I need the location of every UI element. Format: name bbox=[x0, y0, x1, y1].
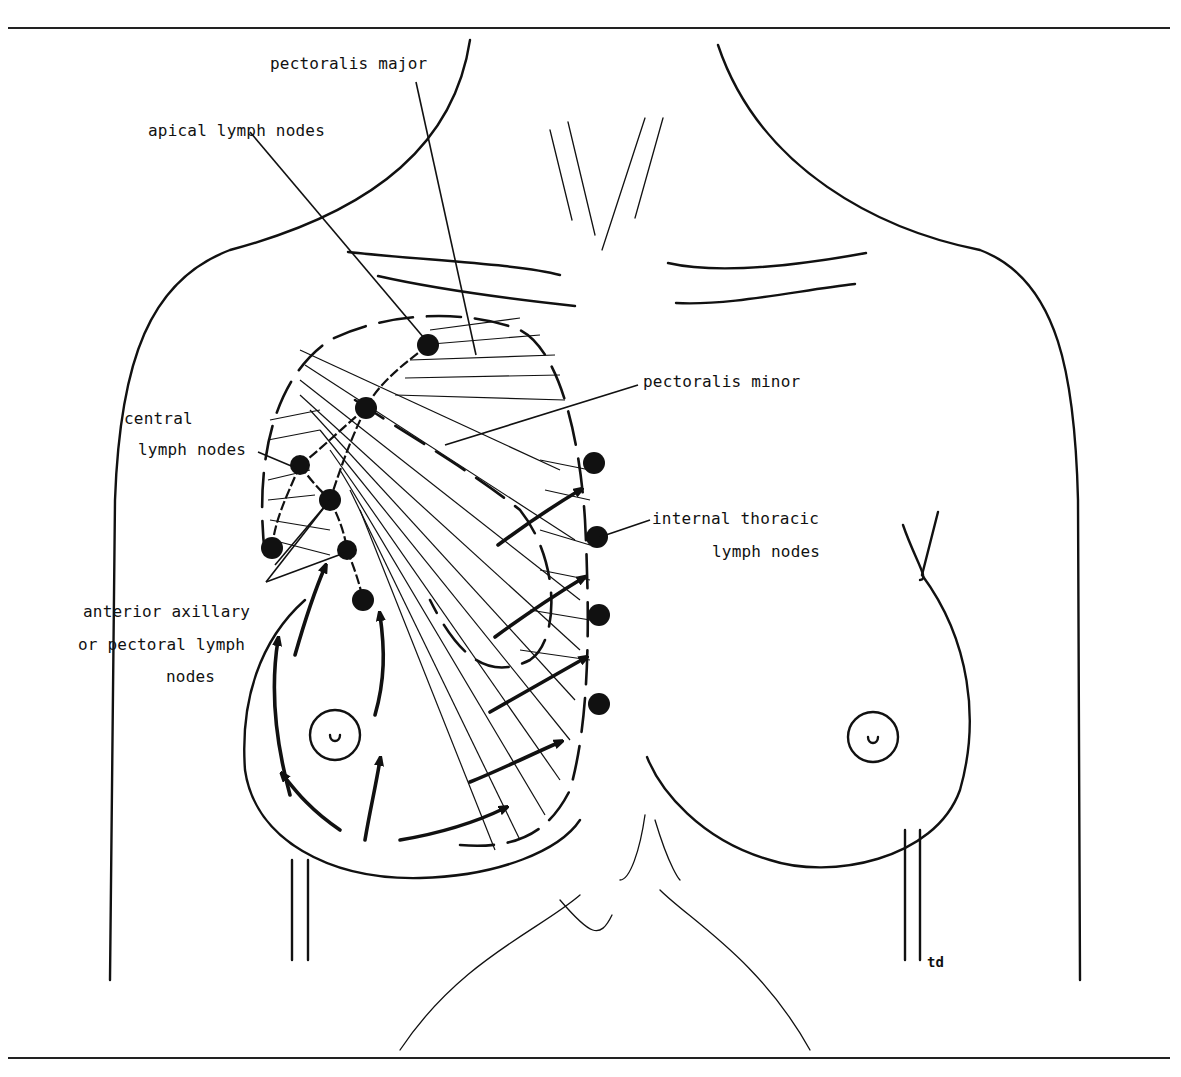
leader-pectoralis-major bbox=[416, 82, 476, 355]
pectoral-node bbox=[337, 540, 357, 560]
apical-node-lower bbox=[355, 397, 377, 419]
axillary-lymph-nodes bbox=[261, 334, 439, 611]
torso-outline bbox=[110, 40, 1080, 980]
leader-central bbox=[258, 452, 296, 468]
pectoral-node-lower bbox=[352, 589, 374, 611]
label-central-line2: lymph nodes bbox=[138, 442, 246, 458]
contralateral-breast bbox=[620, 512, 970, 960]
leader-internal-thoracic bbox=[600, 520, 650, 537]
label-anterior-line2: or pectoral lymph bbox=[78, 637, 245, 653]
label-apical-lymph-nodes: apical lymph nodes bbox=[148, 123, 325, 139]
pectoralis-major bbox=[262, 316, 590, 850]
label-pectoralis-major: pectoralis major bbox=[270, 56, 427, 72]
label-pectoralis-minor: pectoralis minor bbox=[643, 374, 800, 390]
central-node bbox=[290, 455, 310, 475]
lower-chest-line-left bbox=[400, 895, 580, 1050]
leader-pectoralis-minor bbox=[445, 385, 638, 445]
leader-anterior-3 bbox=[275, 500, 330, 565]
lower-chest-line-right bbox=[660, 890, 810, 1050]
pectoral-node-lateral bbox=[261, 537, 283, 559]
label-central-line1: central bbox=[124, 411, 193, 427]
breast-lymphatic-drainage-diagram: td pectoralis major apical lymph nodes p… bbox=[0, 0, 1181, 1077]
label-anterior-line1: anterior axillary bbox=[83, 604, 250, 620]
apical-node bbox=[417, 334, 439, 356]
anatomy-illustration: td bbox=[0, 0, 1181, 1077]
leader-lines bbox=[250, 82, 650, 582]
label-internal-thoracic-line2: lymph nodes bbox=[712, 544, 820, 560]
artist-signature: td bbox=[927, 954, 944, 970]
label-anterior-line3: nodes bbox=[166, 669, 215, 685]
label-internal-thoracic-line1: internal thoracic bbox=[652, 511, 819, 527]
drainage-arrows bbox=[274, 490, 585, 840]
